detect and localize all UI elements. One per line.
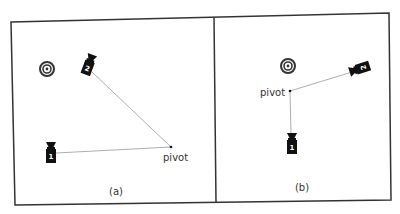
pivot-label: pivot bbox=[260, 87, 285, 98]
pivot-point bbox=[289, 90, 292, 93]
camera-1-number: 1 bbox=[290, 144, 295, 152]
panel-divider bbox=[214, 17, 216, 202]
target-bullseye-icon bbox=[40, 62, 54, 76]
line-camera2-to-pivot bbox=[290, 72, 352, 91]
pivot-label: pivot bbox=[163, 152, 188, 163]
panel-b: 2 1 pivot (b) bbox=[260, 59, 371, 193]
target-bullseye-icon bbox=[281, 59, 295, 73]
camera-1-number: 1 bbox=[49, 153, 54, 161]
outer-frame bbox=[11, 13, 391, 205]
camera-icon: 1 bbox=[287, 133, 297, 154]
pivot-point bbox=[170, 146, 173, 149]
camera-icon: 2 bbox=[81, 53, 98, 76]
figure-canvas: 2 1 pivot (a) 2 1 pivot (b) bbox=[0, 0, 400, 214]
camera-icon: 1 bbox=[46, 142, 56, 163]
panel-a: 2 1 pivot (a) bbox=[40, 53, 188, 197]
line-camera1-to-pivot bbox=[56, 147, 171, 153]
panel-caption: (a) bbox=[109, 186, 123, 197]
line-camera1-to-pivot bbox=[290, 91, 291, 134]
camera-icon: 2 bbox=[348, 61, 371, 77]
panel-caption: (b) bbox=[295, 182, 309, 193]
line-camera2-to-pivot bbox=[92, 72, 171, 147]
